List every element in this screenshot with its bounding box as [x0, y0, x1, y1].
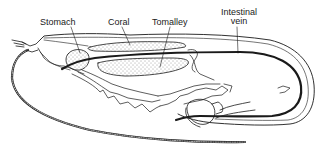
stomach-organ	[66, 50, 89, 71]
intestinal-vein-leader-line	[237, 27, 238, 53]
label-intestinal-vein-line2: vein	[216, 17, 262, 26]
coral-organ	[88, 42, 186, 52]
label-stomach: Stomach	[40, 18, 76, 27]
tail-detail	[278, 86, 290, 93]
stomach-leader-line	[71, 27, 80, 53]
label-tomalley: Tomalley	[152, 18, 188, 27]
leg-socket	[186, 99, 255, 127]
lobster-anatomy-diagram: Stomach Coral Tomalley Intestinal vein	[0, 0, 325, 151]
label-coral: Coral	[108, 18, 130, 27]
tomalley-organ	[98, 58, 189, 76]
head-spines	[12, 40, 40, 52]
abdomen-inner	[188, 49, 214, 80]
label-intestinal-vein: Intestinal vein	[216, 8, 262, 26]
gills-region	[72, 70, 232, 112]
